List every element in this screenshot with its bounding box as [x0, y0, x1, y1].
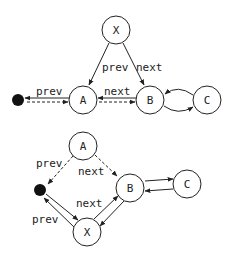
bottom-diagram: prev next prev next A B C: [32, 132, 201, 246]
node-label: X: [84, 226, 91, 239]
null-node: [12, 94, 24, 106]
node-label: A: [80, 140, 87, 153]
node-c: C: [193, 86, 221, 114]
edge-label-prev: prev: [32, 213, 59, 226]
top-diagram: prev next prev next X A B: [12, 16, 221, 114]
node-label: B: [127, 182, 134, 195]
node-label: B: [147, 94, 154, 107]
linked-list-diagram: prev next prev next X A B: [0, 0, 233, 261]
edge-label-next: next: [76, 197, 103, 210]
node-c: C: [173, 170, 201, 198]
node-a: A: [69, 86, 97, 114]
node-b: B: [136, 86, 164, 114]
edge-label-prev: prev: [36, 85, 63, 98]
node-label: C: [204, 94, 211, 107]
node-label: A: [80, 94, 87, 107]
node-a: A: [69, 132, 97, 160]
edge-label-next: next: [136, 61, 163, 74]
edge-label-next: next: [78, 165, 105, 178]
edge-label-prev: prev: [36, 157, 63, 170]
node-b: B: [116, 174, 144, 202]
edge-c-to-b: [165, 89, 193, 95]
edge-label-prev: prev: [102, 61, 129, 74]
node-label: C: [184, 178, 191, 191]
node-label: X: [113, 24, 120, 37]
node-x: X: [73, 218, 101, 246]
edge-label-next: next: [104, 85, 131, 98]
node-x: X: [102, 16, 130, 44]
edge-b-to-c: [164, 106, 193, 111]
edge-b-to-x: [100, 201, 124, 226]
null-node: [34, 184, 46, 196]
edge-c-to-b: [145, 189, 173, 191]
edge-b-to-c: [145, 179, 173, 181]
